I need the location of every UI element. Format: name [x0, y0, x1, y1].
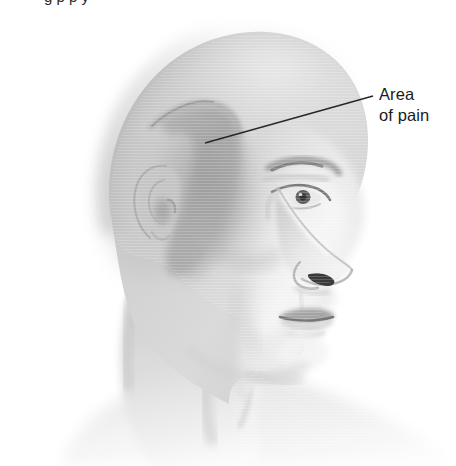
area-of-pain-label: Area of pain	[379, 84, 429, 126]
top-caption-text: g p p y	[44, 0, 89, 5]
head-illustration	[0, 0, 456, 466]
callout-label-line-2: of pain	[379, 105, 429, 126]
top-caption-clip: g p p y	[0, 0, 456, 9]
callout-label-line-1: Area	[379, 84, 429, 105]
figure-root: g p p y Area of pain	[0, 0, 456, 466]
